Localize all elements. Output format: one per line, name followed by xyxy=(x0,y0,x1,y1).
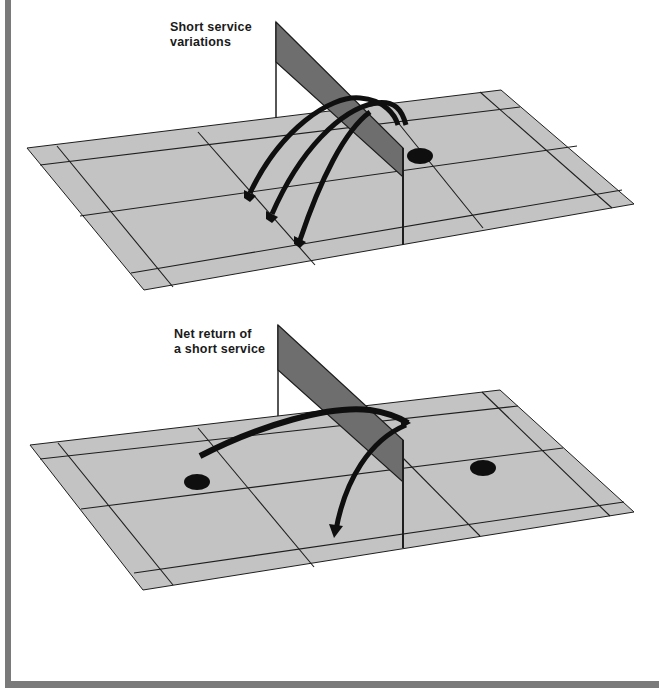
player-dot-left xyxy=(184,474,210,490)
bottom-court-diagram xyxy=(30,325,634,590)
court-surface xyxy=(30,390,634,590)
receiver-dot xyxy=(407,148,433,164)
player-dot-right xyxy=(470,460,496,476)
badminton-diagrams xyxy=(0,0,659,691)
court-surface xyxy=(27,90,634,290)
top-court-diagram xyxy=(27,22,634,290)
